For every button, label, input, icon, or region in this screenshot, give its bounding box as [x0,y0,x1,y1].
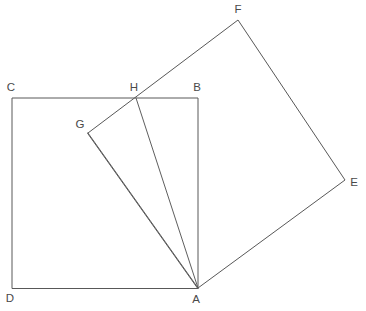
segment-ah [136,98,198,288]
vertex-label-e: E [350,177,358,189]
geometry-figure: A B C D E F G H [0,0,366,311]
vertex-label-b: B [193,82,201,94]
vertex-label-f: F [234,4,241,16]
vertex-label-h: H [130,82,138,94]
vertex-label-d: D [6,293,14,305]
vertex-label-a: A [192,294,200,306]
square-abdc [12,98,198,288]
geometry-canvas [0,0,366,311]
vertex-label-c: C [7,82,15,94]
square-aefg [88,20,345,288]
vertex-label-g: G [76,119,85,131]
segment-ag [88,133,198,288]
